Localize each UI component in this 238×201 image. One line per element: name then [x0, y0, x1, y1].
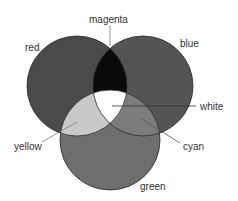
- magenta-label: magenta: [89, 14, 128, 25]
- red-label: red: [25, 42, 39, 53]
- white-label: white: [199, 101, 224, 112]
- cyan-label: cyan: [183, 141, 204, 152]
- venn-diagram: magenta red blue white yellow cyan green: [0, 0, 238, 201]
- green-label: green: [140, 181, 166, 192]
- blue-label: blue: [180, 38, 199, 49]
- yellow-label: yellow: [14, 141, 43, 152]
